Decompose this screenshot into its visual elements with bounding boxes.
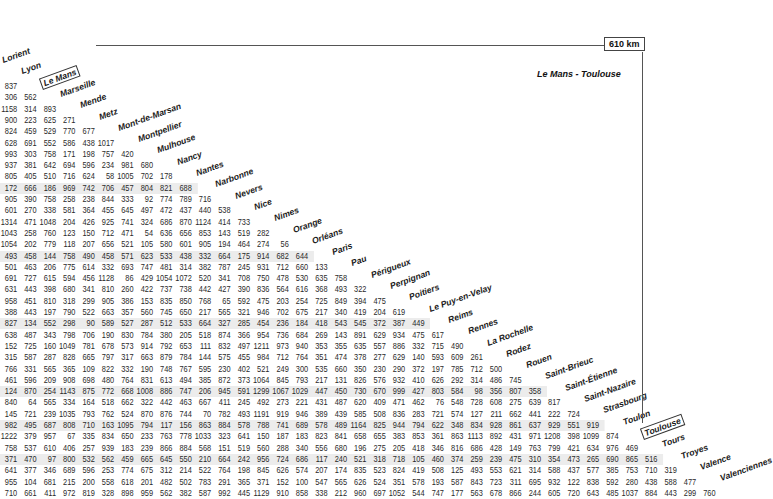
distance-cell: 886 xyxy=(152,386,173,397)
distance-cell: 144 xyxy=(35,251,56,262)
matrix-row: 837 xyxy=(0,81,23,92)
city-header: Rouen xyxy=(524,352,553,371)
distance-cell: 891 xyxy=(346,330,367,341)
distance-cell: 884 xyxy=(637,488,658,499)
distance-cell: 459 xyxy=(113,454,134,465)
distance-cell: 387 xyxy=(385,318,406,329)
distance-cell: 174 xyxy=(326,465,347,476)
distance-cell: 287 xyxy=(132,318,153,329)
distance-cell: 92 xyxy=(132,194,153,205)
distance-cell: 760 xyxy=(695,488,716,499)
distance-cell: 203 xyxy=(268,296,289,307)
distance-cell: 955 xyxy=(0,477,17,488)
distance-cell: 562 xyxy=(152,488,173,499)
city-header: Lyon xyxy=(20,60,43,76)
distance-cell: 486 xyxy=(482,375,503,386)
distance-cell: 781 xyxy=(74,341,95,352)
distance-cell: 736 xyxy=(268,330,289,341)
distance-cell: 984 xyxy=(249,352,270,363)
distance-cell: 587 xyxy=(16,352,37,363)
distance-cell: 149 xyxy=(501,443,522,454)
distance-cell: 153 xyxy=(132,296,153,307)
distance-cell: 275 xyxy=(365,443,386,454)
matrix-row: 5014632067756143326937474813143827872459… xyxy=(0,262,333,273)
distance-cell: 398 xyxy=(559,431,580,442)
distance-cell: 697 xyxy=(365,488,386,499)
distance-cell: 827 xyxy=(0,318,17,329)
distance-cell: 658 xyxy=(346,431,367,442)
distance-cell: 86 xyxy=(113,273,134,284)
distance-cell: 70 xyxy=(191,409,212,420)
distance-cell: 172 xyxy=(0,183,17,194)
distance-cell: 312 xyxy=(152,465,173,476)
distance-cell: 946 xyxy=(288,409,309,420)
distance-cell: 1064 xyxy=(249,375,270,386)
distance-cell: 238 xyxy=(74,194,95,205)
distance-cell: 689 xyxy=(55,465,76,476)
distance-cell: 131 xyxy=(326,375,347,386)
distance-cell: 274 xyxy=(249,239,270,250)
distance-cell: 835 xyxy=(346,465,367,476)
distance-cell: 905 xyxy=(0,194,17,205)
distance-cell: 545 xyxy=(346,318,367,329)
matrix-row: 172666186969742706457804821688 xyxy=(0,183,197,194)
distance-cell: 351 xyxy=(385,477,406,488)
distance-cell: 684 xyxy=(288,330,309,341)
distance-cell: 463 xyxy=(16,262,37,273)
distance-cell: 516 xyxy=(637,454,658,465)
distance-cell: 421 xyxy=(559,443,580,454)
distance-cell: 1043 xyxy=(0,228,17,239)
distance-cell: 588 xyxy=(656,477,677,488)
distance-cell: 733 xyxy=(229,217,250,228)
distance-cell: 318 xyxy=(55,296,76,307)
distance-cell: 758 xyxy=(35,149,56,160)
distance-cell: 371 xyxy=(249,477,270,488)
distance-cell: 932 xyxy=(540,477,561,488)
distance-cell: 816 xyxy=(443,443,464,454)
distance-cell: 1191 xyxy=(249,409,270,420)
distance-cell: 853 xyxy=(191,228,212,239)
city-header: Nantes xyxy=(195,159,225,178)
distance-cell: 474 xyxy=(326,352,347,363)
distance-cell: 390 xyxy=(16,194,37,205)
distance-cell: 619 xyxy=(385,307,406,318)
distance-cell: 443 xyxy=(656,488,677,499)
matrix-row: 6384873437987061908307843802055188743669… xyxy=(0,330,450,341)
distance-cell: 125 xyxy=(443,465,464,476)
distance-cell: 150 xyxy=(74,228,95,239)
distance-cell: 343 xyxy=(35,330,56,341)
distance-cell: 601 xyxy=(171,239,192,250)
distance-cell: 427 xyxy=(404,386,425,397)
distance-cell: 438 xyxy=(171,251,192,262)
distance-cell: 721 xyxy=(423,409,444,420)
distance-cell: 668 xyxy=(113,386,134,397)
distance-cell: 560 xyxy=(132,307,153,318)
distance-cell: 245 xyxy=(229,397,250,408)
distance-cell: 475 xyxy=(249,296,270,307)
distance-cell: 522 xyxy=(74,307,95,318)
distance-cell: 122 xyxy=(559,477,580,488)
distance-cell: 934 xyxy=(385,330,406,341)
distance-cell: 645 xyxy=(152,454,173,465)
distance-cell: 925 xyxy=(94,217,115,228)
distance-cell: 350 xyxy=(346,364,367,375)
distance-cell: 419 xyxy=(404,465,425,476)
distance-cell: 327 xyxy=(210,318,231,329)
distance-cell: 164 xyxy=(74,397,95,408)
distance-cell: 695 xyxy=(520,477,541,488)
distance-cell: 758 xyxy=(326,273,347,284)
distance-cell: 972 xyxy=(55,488,76,499)
distance-cell: 265 xyxy=(579,454,600,465)
distance-cell: 764 xyxy=(210,465,231,476)
distance-cell: 124 xyxy=(0,386,17,397)
matrix-row: 7106614119728193288989595623825879924451… xyxy=(0,488,721,499)
city-header: Nancy xyxy=(175,148,203,166)
distance-cell: 521 xyxy=(113,239,134,250)
distance-cell: 706 xyxy=(94,183,115,194)
distance-cell: 656 xyxy=(94,239,115,250)
distance-cell: 282 xyxy=(249,228,270,239)
distance-cell: 1067 xyxy=(268,386,289,397)
distance-cell: 956 xyxy=(249,454,270,465)
matrix-row: 6314433986803418102604227377384424273908… xyxy=(0,284,372,295)
distance-cell: 493 xyxy=(229,409,250,420)
